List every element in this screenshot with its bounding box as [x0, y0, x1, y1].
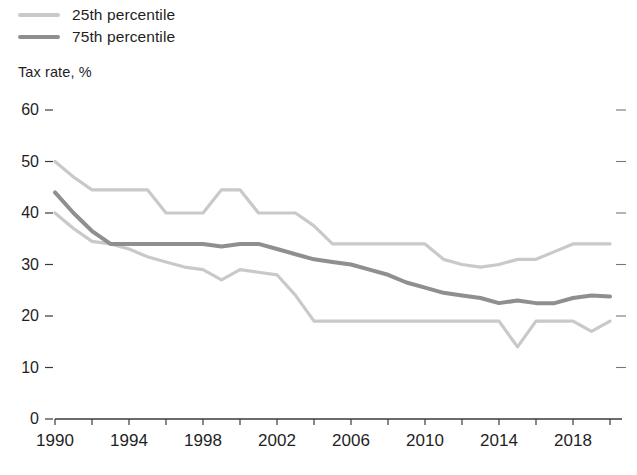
chart-svg [0, 0, 637, 475]
x-axis-tick-label: 2014 [469, 431, 529, 451]
y-axis-tick-label: 40 [5, 204, 39, 222]
x-axis-tick-label: 1998 [173, 431, 233, 451]
chart-plot-area: 0102030405060199019941998200220062010201… [0, 0, 637, 475]
x-axis-tick-label: 1994 [99, 431, 159, 451]
chart-series-line [55, 213, 610, 347]
y-axis-tick-label: 10 [5, 359, 39, 377]
x-axis-tick-label: 2010 [395, 431, 455, 451]
y-axis-tick-label: 30 [5, 256, 39, 274]
y-axis-tick-label: 0 [5, 410, 39, 428]
y-axis-tick-label: 50 [5, 153, 39, 171]
x-axis-tick-label: 1990 [25, 431, 85, 451]
chart-series-line [55, 192, 610, 303]
y-axis-tick-label: 20 [5, 307, 39, 325]
x-axis-tick-label: 2006 [321, 431, 381, 451]
x-axis-tick-label: 2002 [247, 431, 307, 451]
x-axis-tick-label: 2018 [543, 431, 603, 451]
y-axis-tick-label: 60 [5, 101, 39, 119]
